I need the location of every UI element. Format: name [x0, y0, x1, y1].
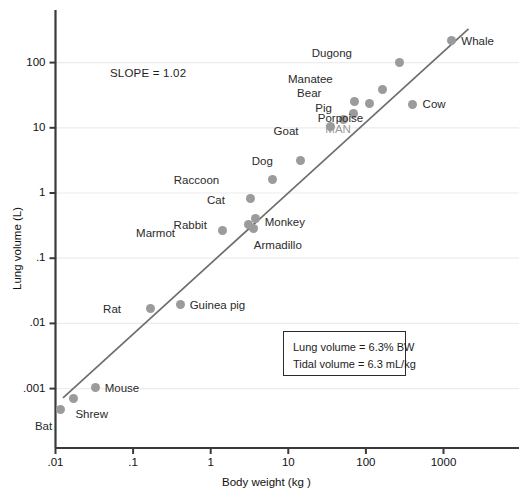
y-tick-label: 100	[0, 57, 46, 68]
x-tick-label: .1	[111, 457, 155, 468]
point-label-monkey: Monkey	[265, 217, 305, 228]
point-label-raccoon: Raccoon	[174, 175, 219, 186]
point-label-rabbit: Rabbit	[174, 220, 207, 231]
y-tick-label: .001	[0, 383, 46, 394]
slope-annotation: SLOPE = 1.02	[110, 68, 186, 79]
data-point-raccoon	[268, 175, 277, 184]
point-label-shrew: Shrew	[75, 409, 108, 420]
point-label-cow: Cow	[423, 99, 446, 110]
point-label-cat: Cat	[207, 195, 225, 206]
y-tick-label: .01	[0, 317, 46, 328]
formula-legend-box: Lung volume = 6.3% BW Tidal volume = 6.3…	[283, 331, 406, 376]
y-axis-title: Lung volume (L)	[12, 207, 23, 290]
point-label-goat: Goat	[274, 126, 299, 137]
point-label-armadillo: Armadillo	[254, 240, 302, 251]
point-label-manatee: Manatee	[288, 74, 333, 85]
lung-volume-body-weight-chart: 100 10 1 .1 .01 .001 .01 .1 1 10 100 100…	[0, 0, 525, 496]
point-label-whale: Whale	[461, 36, 494, 47]
point-label-guinea-pig: Guinea pig	[190, 300, 246, 311]
x-axis-title: Body weight (kg )	[222, 477, 311, 488]
data-point-marmot	[218, 226, 227, 235]
y-tick-label: 1	[0, 187, 46, 198]
x-tick-label: 1	[189, 457, 233, 468]
x-tick-label: 10	[266, 457, 310, 468]
point-label-dugong: Dugong	[312, 48, 352, 59]
data-point-cow	[408, 100, 417, 109]
point-label-man: MAN	[325, 124, 351, 135]
x-tick-label: 100	[344, 457, 388, 468]
data-point-shrew	[69, 394, 78, 403]
data-point-mouse	[91, 383, 100, 392]
y-tick-label: 10	[0, 122, 46, 133]
data-point-porpoise	[365, 99, 374, 108]
x-tick-label: .01	[34, 457, 78, 468]
legend-line-tidal-volume: Tidal volume = 6.3 mL/kg	[293, 358, 416, 370]
point-label-rat: Rat	[103, 304, 121, 315]
point-label-porpoise: Porpoise	[318, 113, 363, 124]
point-label-mouse: Mouse	[105, 383, 140, 394]
point-label-marmot: Marmot	[136, 228, 175, 239]
point-label-bat: Bat	[35, 421, 52, 432]
data-point-rat	[146, 304, 155, 313]
legend-line-lung-volume: Lung volume = 6.3% BW	[293, 341, 414, 353]
point-label-bear: Bear	[297, 88, 321, 99]
x-tick-label: 1000	[422, 457, 466, 468]
point-label-dog: Dog	[252, 156, 273, 167]
